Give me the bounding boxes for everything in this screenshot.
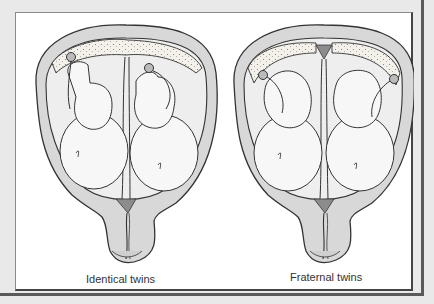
fraternal-twins-uterus — [234, 25, 414, 263]
identical-twins-uterus — [36, 25, 217, 263]
caption-fraternal-twins: Fraternal twins — [290, 271, 362, 283]
twins-illustration — [16, 13, 414, 292]
caption-identical-twins: Identical twins — [86, 273, 155, 285]
figure-panel: Identical twins Fraternal twins — [15, 12, 413, 291]
